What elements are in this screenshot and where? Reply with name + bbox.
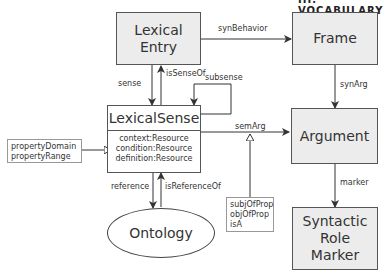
lexical-entry-line2: Entry: [140, 39, 177, 56]
lexical-sense-attributes: context:Resource condition:Resource defi…: [115, 131, 192, 164]
edge-label-synbehavior: synBehavior: [218, 24, 268, 33]
lexical-entry-line1: Lexical: [134, 22, 182, 39]
edge-label-reference: reference: [111, 182, 149, 191]
srm-line1: Syntactic: [303, 213, 368, 230]
srm-line2: Role: [320, 230, 350, 247]
ontology-label: Ontology: [129, 225, 193, 241]
edge-label-sense: sense: [118, 79, 141, 88]
node-argument[interactable]: Argument: [291, 108, 378, 164]
attr-condition: condition:Resource: [115, 144, 192, 154]
node-frame[interactable]: Frame: [292, 12, 378, 65]
node-syntactic-role-marker[interactable]: Syntactic Role Marker: [292, 207, 378, 270]
note-property: propertyDomain propertyRange: [7, 139, 82, 163]
note-property-domain: propertyDomain: [11, 142, 78, 152]
note-semarg: subjOfProp objOfProp isA: [226, 197, 274, 232]
srm-line3: Marker: [311, 247, 359, 264]
edge-label-marker: marker: [340, 178, 369, 187]
edge-label-issenseof: isSenseOf: [166, 69, 206, 78]
node-lexical-entry[interactable]: Lexical Entry: [116, 12, 201, 65]
edge-label-semarg: semArg: [235, 122, 266, 131]
note-property-range: propertyRange: [11, 152, 78, 162]
attr-definition: definition:Resource: [115, 154, 192, 164]
edge-label-synarg: synArg: [340, 80, 368, 89]
attr-context: context:Resource: [115, 134, 192, 144]
note-subjofprop: subjOfProp: [230, 200, 270, 210]
edge-label-subsense: subsense: [205, 73, 243, 82]
edge-label-isreferenceof: isReferenceOf: [165, 182, 221, 191]
lexical-sense-title: LexicalSense: [108, 106, 200, 131]
note-isa: isA: [230, 220, 270, 230]
frame-label: Frame: [313, 30, 357, 47]
node-lexical-sense[interactable]: LexicalSense context:Resource condition:…: [107, 105, 201, 173]
argument-label: Argument: [300, 128, 369, 145]
node-ontology[interactable]: Ontology: [107, 208, 215, 258]
note-objofprop: objOfProp: [230, 210, 270, 220]
